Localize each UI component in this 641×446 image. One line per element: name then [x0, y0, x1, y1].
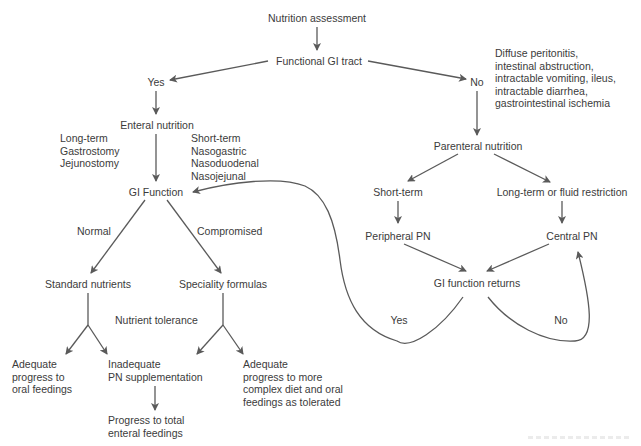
text-line: enteral feedings [108, 427, 184, 440]
node-gi-function-returns: GI function returns [434, 277, 520, 290]
text-line: Inadequate [108, 358, 203, 371]
edge-label-normal: Normal [77, 225, 111, 238]
nasojejunal-label: Nasojejunal [191, 170, 259, 183]
arrow-parenteral-to-short-term [408, 154, 458, 181]
text-line: oral feedings [12, 383, 72, 396]
arrow-functional-to-yes [170, 61, 268, 80]
jejunostomy-label: Jejunostomy [60, 157, 120, 170]
label-nutrient-tolerance: Nutrient tolerance [115, 314, 198, 327]
arrow-standard-to-inadequate [88, 325, 107, 354]
text-line: Progress to total [108, 414, 184, 427]
node-standard-nutrients: Standard nutrients [45, 278, 131, 291]
text-line: feedings as tolerated [243, 396, 343, 409]
arrow-standard-to-adequate-oral [66, 325, 88, 354]
arrow-speciality-to-adequate-complex [223, 325, 243, 354]
node-adequate-complex: Adequate progress to more complex diet a… [243, 358, 343, 408]
node-parenteral-nutrition: Parenteral nutrition [434, 140, 523, 153]
node-nutrition-assessment: Nutrition assessment [268, 12, 366, 25]
contraindication-item: intestinal abstruction, [495, 60, 616, 73]
node-enteral-nutrition: Enteral nutrition [120, 119, 194, 132]
contraindication-item: intractable vomiting, ileus, [495, 72, 616, 85]
node-inadequate-pn: Inadequate PN supplementation [108, 358, 203, 383]
node-central-pn: Central PN [546, 230, 597, 243]
text-line: PN supplementation [108, 371, 203, 384]
contraindications-list: Diffuse peritonitis, intestinal abstruct… [495, 47, 616, 110]
node-adequate-oral: Adequate progress to oral feedings [12, 358, 72, 396]
arrow-speciality-to-inadequate [197, 325, 223, 354]
text-line: Adequate [12, 358, 72, 371]
arrow-peripheral-to-gi-returns [404, 244, 466, 271]
node-functional-gi-tract: Functional GI tract [276, 55, 362, 68]
node-no: No [470, 76, 483, 89]
short-term-access-list: Short-term Nasogastric Nasoduodenal Naso… [191, 132, 259, 182]
node-gi-function: GI Function [129, 186, 183, 199]
node-peripheral-pn: Peripheral PN [365, 230, 430, 243]
edge-label-compromised: Compromised [197, 225, 262, 238]
arrow-functional-to-no [368, 61, 466, 79]
edge-label-returns-no: No [554, 314, 567, 327]
gastrostomy-label: Gastrostomy [60, 145, 120, 158]
text-line: progress to more [243, 371, 343, 384]
faint-watermark [528, 436, 632, 439]
short-term-label: Short-term [191, 132, 259, 145]
node-speciality-formulas: Speciality formulas [179, 278, 267, 291]
contraindication-item: gastrointestinal ischemia [495, 97, 616, 110]
long-term-label: Long-term [60, 132, 120, 145]
node-short-term-pn: Short-term [373, 186, 423, 199]
contraindication-item: Diffuse peritonitis, [495, 47, 616, 60]
nasogastric-label: Nasogastric [191, 145, 259, 158]
node-progress-total-enteral: Progress to total enteral feedings [108, 414, 184, 439]
node-yes: Yes [147, 76, 164, 89]
edge-label-returns-yes: Yes [390, 314, 407, 327]
long-term-access-list: Long-term Gastrostomy Jejunostomy [60, 132, 120, 170]
curve-gi-returns-no-to-central [488, 252, 589, 341]
text-line: complex diet and oral [243, 383, 343, 396]
arrow-central-to-gi-returns [487, 244, 549, 271]
curve-gi-returns-yes-to-gi-function [193, 181, 463, 343]
arrow-parenteral-to-long-term [494, 154, 550, 182]
text-line: Adequate [243, 358, 343, 371]
node-long-term-fluid-restriction: Long-term or fluid restriction [497, 186, 628, 199]
contraindication-item: intractable diarrhea, [495, 85, 616, 98]
nasoduodenal-label: Nasoduodenal [191, 157, 259, 170]
text-line: progress to [12, 371, 72, 384]
